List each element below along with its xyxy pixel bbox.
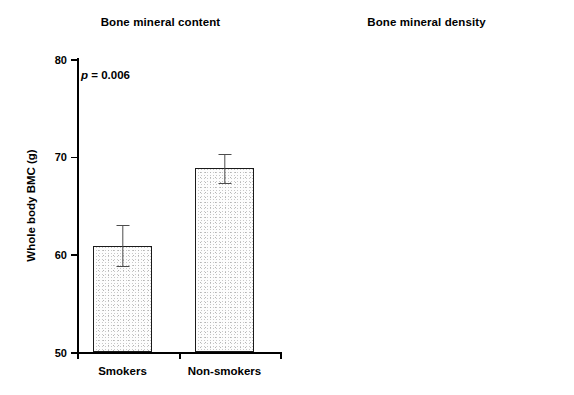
x-category-label-non-smokers: Non-smokers bbox=[188, 365, 262, 377]
y-tick-80: 80 bbox=[71, 59, 77, 61]
y-axis-line bbox=[77, 58, 79, 353]
y-axis-label: Whole body BMC (g) bbox=[20, 59, 42, 352]
y-tick-label-70: 70 bbox=[55, 151, 67, 163]
y-tick-60: 60 bbox=[71, 254, 77, 256]
error-cap-top-non-smokers bbox=[218, 154, 231, 155]
y-tick-label-80: 80 bbox=[55, 54, 67, 66]
bar-non-smokers[interactable] bbox=[195, 168, 254, 352]
error-bar-non-smokers bbox=[224, 154, 225, 183]
panel-title: Bone mineral density bbox=[287, 16, 574, 28]
panel-bone-mineral-content: Bone mineral content Whole body BMC (g) … bbox=[0, 0, 287, 395]
panel-bone-mineral-density: Bone mineral density Whole body BMD (g c… bbox=[287, 0, 574, 395]
error-cap-top-smokers bbox=[116, 225, 129, 226]
error-cap-bottom-non-smokers bbox=[218, 183, 231, 184]
y-tick-label-50: 50 bbox=[55, 347, 67, 359]
y-tick-70: 70 bbox=[71, 157, 77, 159]
error-cap-bottom-smokers bbox=[116, 266, 129, 267]
plot-area: 80 70 60 50 Smokers bbox=[77, 59, 282, 352]
y-tick-label-60: 60 bbox=[55, 249, 67, 261]
x-tick-start bbox=[77, 352, 79, 359]
x-tick-divider bbox=[179, 352, 181, 359]
panel-title: Bone mineral content bbox=[0, 16, 287, 28]
x-category-label-smokers: Smokers bbox=[98, 365, 147, 377]
x-tick-end bbox=[280, 352, 282, 359]
figure-container: Bone mineral content Whole body BMC (g) … bbox=[0, 0, 574, 395]
error-bar-smokers bbox=[122, 225, 123, 266]
